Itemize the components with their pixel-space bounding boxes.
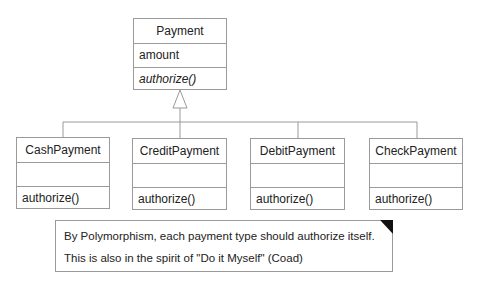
class-attributes-empty — [251, 164, 344, 188]
class-name: CashPayment — [17, 138, 109, 163]
class-attribute: amount — [134, 44, 226, 68]
note-corner-icon — [380, 220, 393, 234]
class-attributes-empty — [370, 164, 462, 188]
class-cash-payment[interactable]: CashPayment authorize() — [16, 137, 110, 209]
note-line-1: By Polymorphism, each payment type shoul… — [64, 230, 375, 242]
uml-note[interactable]: By Polymorphism, each payment type shoul… — [55, 220, 393, 272]
note-line-2: This is also in the spirit of "Do it Mys… — [64, 252, 303, 264]
class-operation: authorize() — [370, 188, 462, 211]
class-attributes-empty — [17, 163, 109, 187]
class-name: Payment — [134, 19, 226, 44]
class-name: DebitPayment — [251, 139, 344, 164]
class-name: CreditPayment — [133, 139, 226, 164]
class-operation: authorize() — [133, 188, 226, 211]
class-attributes-empty — [133, 164, 226, 188]
class-credit-payment[interactable]: CreditPayment authorize() — [132, 138, 227, 210]
class-operation: authorize() — [17, 187, 109, 210]
class-operation: authorize() — [251, 188, 344, 211]
class-operation: authorize() — [134, 68, 226, 91]
inheritance-arrow-icon — [173, 90, 187, 108]
class-debit-payment[interactable]: DebitPayment authorize() — [250, 138, 345, 210]
class-payment[interactable]: Payment amount authorize() — [133, 18, 227, 90]
class-check-payment[interactable]: CheckPayment authorize() — [369, 138, 463, 210]
class-name: CheckPayment — [370, 139, 462, 164]
